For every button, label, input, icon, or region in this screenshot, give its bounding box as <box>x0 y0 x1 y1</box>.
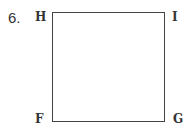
vertex-label-h: H <box>35 10 46 24</box>
vertex-label-g: G <box>173 112 183 126</box>
problem-number: 6. <box>8 9 21 26</box>
square-shape <box>52 12 165 122</box>
vertex-label-f: F <box>35 112 44 126</box>
vertex-label-i: I <box>172 10 178 24</box>
